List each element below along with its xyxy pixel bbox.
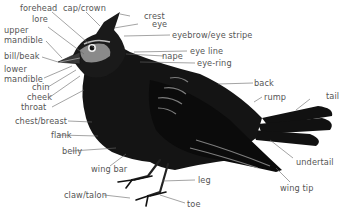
label-throat: throat bbox=[21, 103, 46, 112]
bird-anatomy-diagram: forehead cap/crown crest eye eyebrow/eye… bbox=[0, 0, 344, 214]
label-cheek: cheek bbox=[27, 93, 52, 102]
label-lower-mandible-1: lower bbox=[4, 65, 27, 74]
label-bill-beak: bill/beak bbox=[4, 52, 40, 61]
label-cap-crown: cap/crown bbox=[63, 4, 106, 13]
label-tail: tail bbox=[326, 92, 339, 101]
label-rump: rump bbox=[264, 93, 286, 102]
beak bbox=[58, 52, 80, 64]
label-eye-line: eye line bbox=[190, 47, 223, 56]
label-chest-breast: chest/breast bbox=[15, 117, 67, 126]
label-wing-bar: wing bar bbox=[91, 165, 127, 174]
label-wing-tip: wing tip bbox=[280, 184, 313, 193]
label-claw-talon: claw/talon bbox=[64, 191, 107, 200]
label-undertail: undertail bbox=[296, 158, 334, 167]
label-lore: lore bbox=[32, 15, 48, 24]
label-nape: nape bbox=[162, 52, 183, 61]
tail-feathers bbox=[252, 106, 332, 146]
label-chin: chin bbox=[32, 83, 50, 92]
feet bbox=[118, 176, 166, 206]
label-eye-ring: eye-ring bbox=[197, 59, 232, 68]
label-leg: leg bbox=[198, 176, 211, 185]
label-belly: belly bbox=[62, 147, 82, 156]
label-eye: eye bbox=[152, 20, 167, 29]
label-upper-mandible-2: mandible bbox=[4, 36, 43, 45]
label-upper-mandible-1: upper bbox=[4, 26, 29, 35]
label-eyebrow-stripe: eyebrow/eye stripe bbox=[172, 31, 252, 40]
label-back: back bbox=[254, 79, 274, 88]
label-forehead: forehead bbox=[20, 4, 57, 13]
label-flank: flank bbox=[51, 131, 72, 140]
label-toe: toe bbox=[187, 200, 201, 209]
